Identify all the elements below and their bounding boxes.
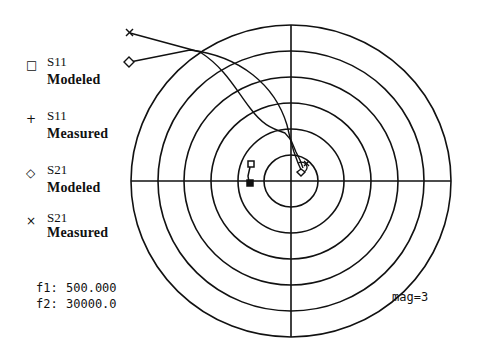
freq-stop: f2:30000.0 [36, 297, 117, 311]
diamond-icon: ◇ [26, 167, 35, 179]
legend-item-s11-measured: + S11 Measured [0, 108, 130, 152]
freq-stop-label: f2: [36, 297, 66, 311]
s21-measured-marker [126, 29, 309, 166]
freq-start-label: f1: [36, 281, 66, 295]
square-icon: □ [26, 59, 37, 71]
legend-item-s21-modeled: ◇ S21 Modeled [0, 162, 130, 206]
scale-label: mag=3 [392, 290, 428, 304]
freq-start: f1:500.000 [36, 281, 117, 295]
freq-stop-value: 30000.0 [66, 297, 117, 311]
freq-start-value: 500.000 [66, 281, 117, 295]
legend-desc: Measured [47, 225, 108, 241]
legend-desc: Modeled [47, 72, 101, 88]
x-icon: × [26, 215, 36, 227]
legend-desc: Modeled [47, 180, 101, 196]
s21-measured-trace [130, 33, 303, 168]
legend-desc: Measured [47, 126, 108, 142]
legend-code: S21 [47, 210, 67, 226]
legend-item-s11-modeled: □ S11 Modeled [0, 54, 130, 98]
legend-code: S11 [47, 108, 67, 124]
legend-code: S21 [47, 162, 67, 178]
legend-item-s21-measured: × S21 Measured [0, 210, 130, 254]
plus-icon: + [26, 113, 36, 125]
legend-code: S11 [47, 54, 67, 70]
s11-trace [247, 161, 254, 186]
